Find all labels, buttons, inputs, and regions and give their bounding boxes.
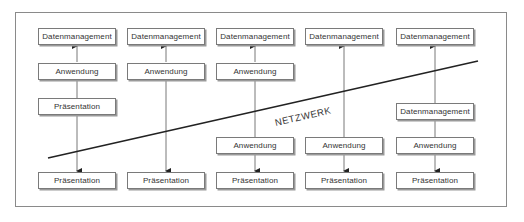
col4-praesentation-box: Präsentation xyxy=(305,172,383,189)
col4-datenmanagement-box: Datenmanagement xyxy=(305,28,383,45)
col3-anwendung-bottom-box: Anwendung xyxy=(216,137,294,154)
col1-praesentation-bottom-box: Präsentation xyxy=(38,172,116,189)
col4-anwendung-box: Anwendung xyxy=(305,137,383,154)
col3-praesentation-box: Präsentation xyxy=(216,172,294,189)
col2-anwendung-box: Anwendung xyxy=(127,63,205,80)
col5-praesentation-box: Präsentation xyxy=(396,172,474,189)
col1-datenmanagement-box: Datenmanagement xyxy=(38,28,116,45)
col5-datenmanagement-bottom-box: Datenmanagement xyxy=(396,103,474,120)
col2-datenmanagement-box: Datenmanagement xyxy=(127,28,205,45)
col2-praesentation-box: Präsentation xyxy=(127,172,205,189)
col1-praesentation-top-box: Präsentation xyxy=(38,98,116,115)
col3-anwendung-top-box: Anwendung xyxy=(216,63,294,80)
col3-datenmanagement-box: Datenmanagement xyxy=(216,28,294,45)
col5-datenmanagement-top-box: Datenmanagement xyxy=(396,28,474,45)
col5-anwendung-box: Anwendung xyxy=(396,137,474,154)
col1-anwendung-box: Anwendung xyxy=(38,63,116,80)
